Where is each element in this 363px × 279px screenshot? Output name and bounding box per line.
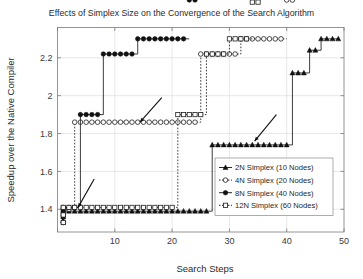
marker-circle-open xyxy=(187,120,192,125)
marker-square-open xyxy=(223,203,227,207)
marker-circle-open xyxy=(290,0,295,2)
marker-square-open xyxy=(84,205,88,209)
marker-circle-open xyxy=(124,120,129,125)
marker-square-open xyxy=(239,37,243,41)
marker-circle-filled xyxy=(113,52,118,57)
marker-circle-open xyxy=(158,120,163,125)
marker-circle-open xyxy=(256,37,261,42)
marker-square-open xyxy=(170,205,174,209)
marker-circle-open xyxy=(261,37,266,42)
marker-circle-open xyxy=(284,0,289,2)
legend-label: 12N Simplex (60 Nodes) xyxy=(235,201,318,210)
marker-square-open xyxy=(90,205,94,209)
marker-square-open xyxy=(210,52,214,56)
marker-square-open xyxy=(107,205,111,209)
chart-canvas: Effects of Simplex Size on the Convergen… xyxy=(0,0,363,279)
marker-square-open xyxy=(181,112,185,116)
marker-circle-open xyxy=(198,52,203,57)
marker-circle-filled xyxy=(90,112,95,117)
marker-circle-filled xyxy=(124,52,129,57)
marker-circle-open xyxy=(267,37,272,42)
x-tick-label-5: 50 xyxy=(339,236,349,246)
marker-square-open xyxy=(118,205,122,209)
marker-circle-filled xyxy=(170,37,175,42)
y-tick-label-3: 2 xyxy=(47,91,52,101)
legend-label: 8N Simplex (40 Nodes) xyxy=(235,189,314,198)
marker-circle-open xyxy=(223,178,228,183)
marker-square-open xyxy=(147,205,151,209)
x-tick-label-4: 40 xyxy=(282,236,292,246)
marker-circle-filled xyxy=(101,52,106,57)
marker-circle-open xyxy=(193,120,198,125)
marker-circle-open xyxy=(72,120,77,125)
marker-circle-open xyxy=(95,120,100,125)
marker-circle-open xyxy=(90,120,95,125)
marker-circle-open xyxy=(101,120,106,125)
y-tick-label-2: 1.8 xyxy=(40,129,53,139)
marker-square-open xyxy=(153,205,157,209)
marker-circle-open xyxy=(279,37,284,42)
marker-square-open xyxy=(193,112,197,116)
marker-square-open xyxy=(176,112,180,116)
marker-circle-filled xyxy=(176,37,181,42)
marker-circle-filled xyxy=(107,52,112,57)
marker-square-open xyxy=(73,205,77,209)
marker-circle-filled xyxy=(193,0,198,2)
marker-circle-open xyxy=(273,37,278,42)
marker-square-open xyxy=(61,220,65,224)
marker-circle-filled xyxy=(141,37,146,42)
marker-circle-filled xyxy=(187,0,192,2)
marker-circle-filled xyxy=(223,190,228,195)
x-tick-label-1: 10 xyxy=(110,236,120,246)
marker-circle-filled xyxy=(158,37,163,42)
y-tick-label-4: 2.2 xyxy=(40,53,53,63)
legend-label: 4N Simplex (20 Nodes) xyxy=(235,176,314,185)
y-tick-label-0: 1.4 xyxy=(40,204,53,214)
marker-circle-open xyxy=(113,120,118,125)
marker-square-open xyxy=(61,213,65,217)
marker-square-open xyxy=(164,205,168,209)
marker-square-open xyxy=(204,52,208,56)
marker-circle-open xyxy=(147,120,152,125)
marker-square-open xyxy=(256,0,260,4)
marker-square-open xyxy=(216,52,220,56)
marker-circle-open xyxy=(181,120,186,125)
marker-square-open xyxy=(130,205,134,209)
marker-square-open xyxy=(199,112,203,116)
y-axis-title: Speedup over the Native Compiler xyxy=(5,57,16,202)
marker-circle-open xyxy=(153,120,158,125)
x-axis-title: Search Steps xyxy=(176,263,233,274)
marker-circle-filled xyxy=(181,37,186,42)
marker-square-open xyxy=(250,0,254,4)
marker-circle-filled xyxy=(153,37,158,42)
x-tick-label-2: 20 xyxy=(167,236,177,246)
marker-circle-filled xyxy=(84,112,89,117)
marker-square-open xyxy=(61,205,65,209)
figure-background xyxy=(0,0,363,279)
marker-square-open xyxy=(113,205,117,209)
marker-square-open xyxy=(95,205,99,209)
marker-circle-open xyxy=(170,120,175,125)
marker-circle-filled xyxy=(164,37,169,42)
marker-circle-open xyxy=(135,120,140,125)
chart-title: Effects of Simplex Size on the Convergen… xyxy=(49,8,314,18)
marker-circle-filled xyxy=(95,112,100,117)
marker-circle-open xyxy=(107,120,112,125)
marker-square-open xyxy=(159,205,163,209)
marker-square-open xyxy=(101,205,105,209)
marker-circle-filled xyxy=(118,52,123,57)
marker-square-open xyxy=(227,37,231,41)
x-tick-label-3: 30 xyxy=(224,236,234,246)
marker-square-open xyxy=(187,112,191,116)
marker-circle-filled xyxy=(135,37,140,42)
marker-circle-open xyxy=(164,120,169,125)
marker-square-open xyxy=(141,205,145,209)
chart-figure: Effects of Simplex Size on the Convergen… xyxy=(0,0,363,279)
marker-circle-filled xyxy=(130,52,135,57)
marker-circle-filled xyxy=(147,37,152,42)
marker-square-open xyxy=(67,205,71,209)
marker-circle-open xyxy=(233,52,238,57)
legend-label: 2N Simplex (10 Nodes) xyxy=(235,163,314,172)
marker-circle-open xyxy=(84,120,89,125)
marker-square-open xyxy=(233,37,237,41)
